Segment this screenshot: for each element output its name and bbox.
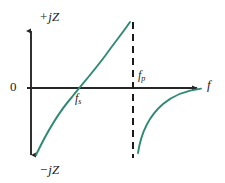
origin-label: 0 bbox=[10, 80, 17, 93]
series-resonance-subscript: s bbox=[78, 97, 81, 106]
parallel-resonance-subscript: p bbox=[141, 74, 145, 83]
y-axis-negative-label: −jZ bbox=[40, 163, 59, 176]
impedance-frequency-figure: +jZ −jZ 0 fs fp f bbox=[0, 0, 225, 183]
minus-sign: − bbox=[40, 162, 47, 177]
series-resonance-label: fs bbox=[75, 92, 82, 106]
impedance-symbol-bottom: Z bbox=[52, 162, 59, 177]
y-axis-positive-label: +jZ bbox=[40, 10, 59, 23]
plus-sign: + bbox=[40, 9, 47, 24]
x-axis-label: f bbox=[207, 78, 211, 91]
parallel-resonance-label: fp bbox=[138, 69, 145, 83]
plot-canvas bbox=[0, 0, 225, 183]
impedance-symbol-top: Z bbox=[52, 9, 59, 24]
impedance-curve-right-branch bbox=[138, 89, 201, 153]
